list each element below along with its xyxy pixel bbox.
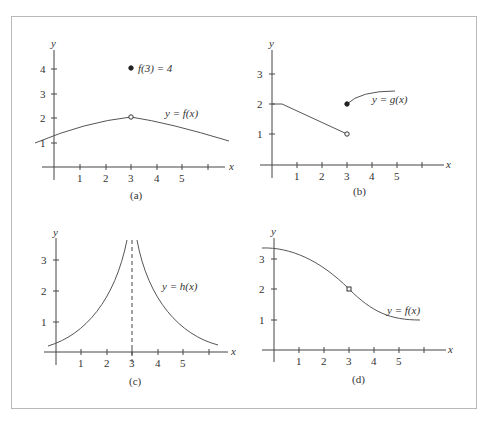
curve-label-a: y = f(x) (164, 107, 198, 120)
tick-label: 1 (294, 170, 300, 182)
tick-label: 2 (41, 285, 47, 297)
curve-label-c: y = h(x) (161, 280, 198, 293)
tick-label: 5 (394, 170, 400, 182)
curve-h-left (48, 240, 127, 346)
tick-label: 4 (40, 63, 46, 75)
tick-label: 5 (180, 357, 186, 369)
caption-b: (b) (353, 185, 366, 198)
tick-label: 3 (129, 357, 135, 369)
curve-f (35, 117, 229, 143)
x-axis-label-a: x (228, 160, 234, 172)
filled-point (129, 66, 133, 70)
y-axis-label-b: y (268, 37, 274, 49)
y-axis-label-c: y (52, 226, 58, 238)
tick-label: 2 (257, 98, 263, 110)
tick-label: 1 (257, 128, 263, 140)
curve-label-d: y = f(x) (386, 304, 420, 317)
tick-label: 3 (40, 88, 46, 100)
tick-label: 3 (259, 253, 265, 265)
tick-label: 2 (259, 283, 265, 295)
y-axis-label-d: y (270, 225, 276, 237)
panel-c (44, 238, 228, 365)
y-axis-label-a: y (50, 37, 56, 49)
curve-label-b: y = g(x) (371, 93, 408, 106)
tick-label: 1 (259, 314, 265, 326)
tick-label: 2 (104, 357, 110, 369)
tick-label: 4 (369, 170, 375, 182)
filled-point (345, 102, 349, 106)
tick-label: 1 (40, 137, 46, 149)
open-point (129, 115, 133, 119)
caption-c: (c) (129, 375, 142, 388)
tick-label: 4 (155, 357, 161, 369)
open-point (347, 287, 351, 291)
panel-a (35, 50, 229, 180)
tick-label: 1 (78, 357, 84, 369)
tick-label: 3 (128, 172, 134, 184)
tick-label: 3 (257, 68, 263, 80)
tick-label: 3 (344, 170, 350, 182)
tick-label: 1 (41, 316, 47, 328)
x-axis-label-d: x (447, 343, 453, 355)
panel-b (260, 50, 444, 178)
tick-label: 2 (103, 172, 109, 184)
x-axis-label-b: x (445, 158, 451, 170)
tick-label: 3 (41, 254, 47, 266)
tick-label: 4 (371, 355, 377, 367)
tick-label: 4 (154, 172, 160, 184)
tick-label: 1 (77, 172, 83, 184)
curve-h-right (137, 240, 218, 345)
tick-label: 3 (346, 355, 352, 367)
tick-label: 2 (321, 355, 327, 367)
annotation-f3: f(3) = 4 (138, 62, 173, 75)
tick-label: 1 (296, 355, 302, 367)
tick-label: 5 (179, 172, 185, 184)
open-point (345, 132, 349, 136)
caption-a: (a) (130, 189, 143, 202)
tick-label: 2 (40, 112, 46, 124)
tick-label: 5 (396, 355, 402, 367)
x-axis-label-c: x (230, 345, 236, 357)
curve-g-left (272, 104, 347, 134)
panel-d (262, 238, 446, 362)
tick-label: 2 (319, 170, 325, 182)
figure-canvas: y x 1 2 3 4 5 1 2 3 4 f(3) = 4 y = f(x) … (0, 0, 483, 421)
caption-d: (d) (352, 373, 365, 386)
